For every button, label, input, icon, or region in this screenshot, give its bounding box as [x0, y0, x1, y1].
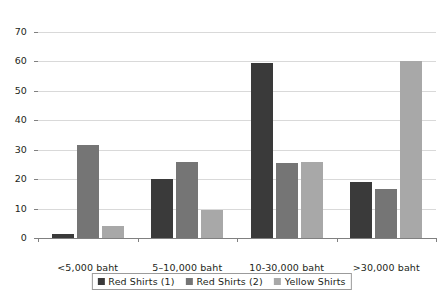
legend-swatch-icon	[274, 278, 281, 285]
bar	[151, 179, 173, 238]
x-axis-category-label: <5,000 baht	[38, 262, 138, 273]
bar	[276, 163, 298, 238]
y-axis-tick-label: 40	[0, 115, 27, 125]
legend-entry[interactable]: Red Shirts (1)	[97, 276, 174, 287]
legend: Red Shirts (1)Red Shirts (2)Yellow Shirt…	[91, 273, 351, 290]
bar	[176, 162, 198, 239]
bar	[77, 145, 99, 238]
bar	[201, 210, 223, 238]
y-axis-tick-label: 60	[0, 56, 27, 66]
y-axis-tick-label: 10	[0, 204, 27, 214]
legend-swatch-icon	[97, 278, 104, 285]
x-tick-mark	[436, 238, 437, 242]
bars-layer	[38, 14, 436, 242]
legend-swatch-icon	[186, 278, 193, 285]
legend-entry[interactable]: Red Shirts (2)	[186, 276, 263, 287]
bar	[375, 189, 397, 238]
bar	[102, 226, 124, 238]
bar	[251, 63, 273, 238]
legend-label: Yellow Shirts	[285, 276, 346, 287]
legend-label: Red Shirts (2)	[197, 276, 263, 287]
y-axis-tick-label: 50	[0, 86, 27, 96]
bar	[301, 162, 323, 239]
x-axis-category-label: >30,000 baht	[337, 262, 437, 273]
y-axis-tick-label: 70	[0, 27, 27, 37]
legend-label: Red Shirts (1)	[108, 276, 174, 287]
x-tick-mark	[138, 238, 139, 242]
y-axis-tick-label: 20	[0, 174, 27, 184]
x-tick-mark	[38, 238, 39, 242]
y-axis-tick-label: 0	[0, 233, 27, 243]
x-tick-mark	[237, 238, 238, 242]
plot-area: 010203040506070 <5,000 baht5–10,000 baht…	[38, 14, 436, 242]
bar-chart: 010203040506070 <5,000 baht5–10,000 baht…	[0, 0, 443, 294]
x-tick-mark	[337, 238, 338, 242]
bar	[400, 61, 422, 238]
y-axis-tick-label: 30	[0, 145, 27, 155]
bar	[350, 182, 372, 238]
x-axis-category-label: 10-30,000 baht	[237, 262, 337, 273]
legend-entry[interactable]: Yellow Shirts	[274, 276, 346, 287]
x-axis-category-label: 5–10,000 baht	[138, 262, 238, 273]
bar	[52, 234, 74, 238]
